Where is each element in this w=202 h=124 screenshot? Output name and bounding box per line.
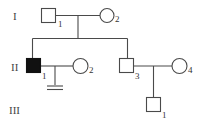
individual-number-iii-1: 1 — [162, 110, 167, 120]
individual-ii-4-female — [172, 59, 187, 74]
individual-number-i-2: 2 — [115, 14, 120, 24]
individual-ii-3-male — [120, 59, 134, 73]
generation-label-iii: III — [9, 104, 20, 116]
individual-number-ii-4: 4 — [188, 65, 193, 75]
individual-number-ii-2: 2 — [89, 65, 94, 75]
pedigree-chart: I II III 1 2 1 2 3 4 1 — [0, 0, 202, 124]
individual-i-1-male — [42, 9, 56, 23]
individual-iii-1-male — [147, 98, 161, 112]
generation-label-ii: II — [11, 61, 19, 73]
generation-label-i: I — [13, 10, 17, 22]
individual-number-ii-3: 3 — [135, 71, 140, 81]
individual-i-2-female — [100, 9, 114, 23]
individual-number-i-1: 1 — [58, 19, 63, 29]
individual-ii-2-female — [73, 59, 88, 74]
individual-number-ii-1: 1 — [42, 71, 47, 81]
individual-ii-1-affected-male — [27, 59, 41, 73]
